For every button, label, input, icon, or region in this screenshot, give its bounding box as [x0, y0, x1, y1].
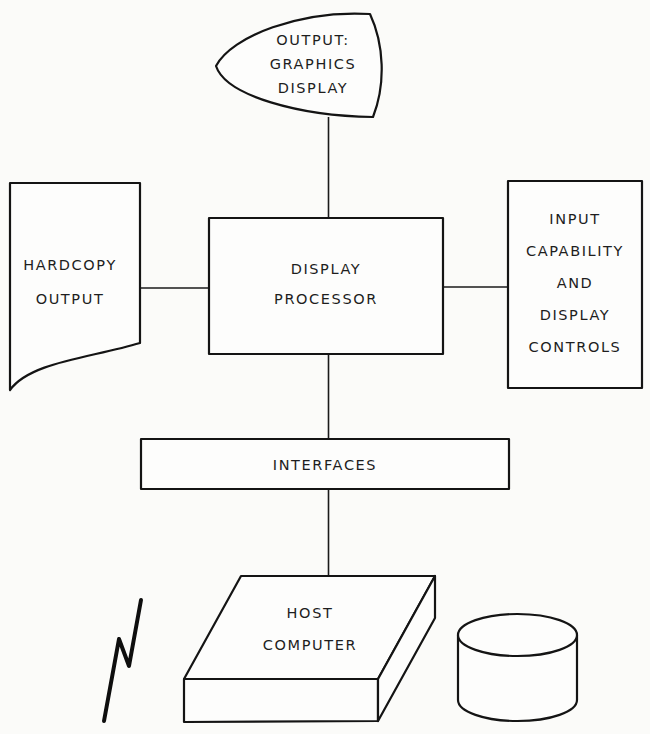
graphics-display-line-2: GRAPHICS [248, 52, 378, 76]
host-computer-line-2: COMPUTER [250, 629, 370, 661]
host-computer-line-1: HOST [250, 597, 370, 629]
interfaces-line-1: INTERFACES [141, 453, 509, 477]
input-controls-line-3: AND [508, 267, 642, 299]
input-controls-line-5: CONTROLS [508, 331, 642, 363]
disk-storage-icon [458, 614, 577, 721]
input-controls-label: INPUT CAPABILITY AND DISPLAY CONTROLS [508, 203, 642, 363]
graphics-display-line-3: DISPLAY [248, 76, 378, 100]
input-controls-line-2: CAPABILITY [508, 235, 642, 267]
interfaces-label: INTERFACES [141, 453, 509, 477]
display-processor-line-2: PROCESSOR [209, 284, 443, 314]
hardcopy-line-2: OUTPUT [15, 282, 125, 316]
communication-link-icon [104, 600, 141, 721]
input-controls-line-1: INPUT [508, 203, 642, 235]
input-controls-line-4: DISPLAY [508, 299, 642, 331]
hardcopy-output-label: HARDCOPY OUTPUT [15, 248, 125, 316]
hardcopy-line-1: HARDCOPY [15, 248, 125, 282]
display-processor-label: DISPLAY PROCESSOR [209, 254, 443, 314]
host-computer-label: HOST COMPUTER [250, 597, 370, 661]
display-processor-line-1: DISPLAY [209, 254, 443, 284]
graphics-display-label: OUTPUT: GRAPHICS DISPLAY [248, 28, 378, 100]
graphics-display-line-1: OUTPUT: [248, 28, 378, 52]
